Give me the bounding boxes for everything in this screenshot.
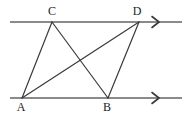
vertex-label-c: C <box>44 5 60 17</box>
segment-b-d <box>108 22 139 98</box>
vertex-label-a: A <box>13 101 29 113</box>
geometry-figure: CDAB <box>0 0 191 118</box>
vertex-label-d: D <box>129 5 145 17</box>
segment-a-c <box>22 22 52 98</box>
segments-group <box>22 22 139 98</box>
segment-c-b <box>52 22 108 98</box>
vertex-label-b: B <box>99 101 115 113</box>
